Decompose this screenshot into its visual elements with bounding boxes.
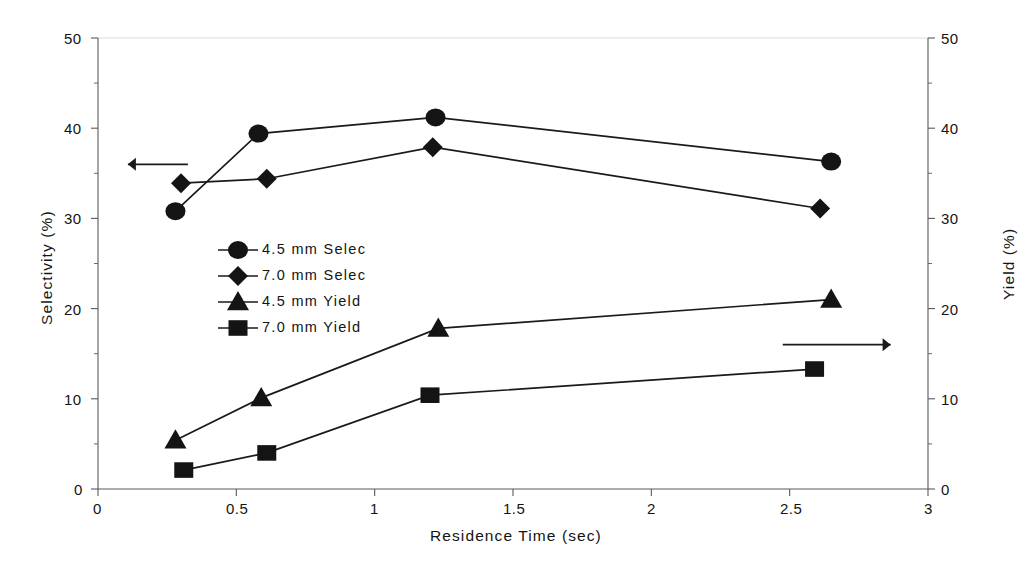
legend-marker-triangle [227, 291, 249, 310]
y2-axis-tick-label: 40 [941, 120, 959, 137]
data-point-triangle [820, 289, 842, 308]
data-point-square [805, 361, 824, 377]
x-axis-tick-label: 3 [924, 500, 933, 517]
right-axis-arrow [883, 338, 891, 351]
series-1 [171, 137, 830, 218]
legend-label-2: 4.5 mm Yield [262, 293, 361, 309]
data-point-diamond [423, 137, 443, 157]
y-axis-tick-label: 50 [64, 30, 82, 47]
y2-axis-tick-label: 30 [941, 210, 959, 227]
axis-lines [98, 38, 928, 489]
legend-marker-square [229, 320, 248, 336]
data-point-circle [426, 108, 446, 126]
legend-marker-circle [228, 241, 248, 259]
legend-label-1: 7.0 mm Selec [262, 267, 366, 283]
x-axis-tick-label: 0 [93, 500, 102, 517]
legend-label-3: 7.0 mm Yield [262, 319, 361, 335]
data-point-diamond [810, 198, 830, 218]
y-axis-tick-label: 10 [64, 391, 82, 408]
plot-canvas [0, 0, 1031, 575]
data-point-square [421, 387, 440, 403]
chart-figure: 50 40 30 20 10 0 50 40 30 20 10 0 0 0.5 … [0, 0, 1031, 575]
data-point-square [257, 445, 276, 461]
y2-axis-tick-label: 10 [941, 391, 959, 408]
data-point-triangle [164, 429, 186, 448]
x-axis-tick-label: 1.5 [503, 500, 525, 517]
y-axis-tick-label: 0 [74, 481, 83, 498]
data-point-diamond [171, 173, 191, 193]
y-axis-tick-label: 40 [64, 120, 82, 137]
data-point-square [174, 462, 193, 478]
y-axis-tick-label: 30 [64, 210, 82, 227]
x-axis-tick-label: 2.5 [780, 500, 802, 517]
y2-axis-title: Yield (%) [1000, 228, 1018, 300]
legend [218, 241, 258, 336]
data-point-triangle [250, 387, 272, 406]
legend-label-0: 4.5 mm Selec [262, 241, 366, 257]
y2-axis-tick-label: 20 [941, 301, 959, 318]
series-0 [165, 108, 841, 220]
y-axis-tick-label: 20 [64, 301, 82, 318]
x-axis-tick-label: 2 [647, 500, 656, 517]
data-point-circle [821, 153, 841, 171]
axis-ticks [91, 38, 935, 496]
y-axis-title: Selectivity (%) [38, 210, 56, 325]
series-3 [174, 361, 824, 478]
y2-axis-tick-label: 50 [941, 30, 959, 47]
x-axis-tick-label: 1 [370, 500, 379, 517]
y2-axis-tick-label: 0 [941, 481, 950, 498]
left-axis-arrow [128, 158, 136, 171]
x-axis-title: Residence Time (sec) [430, 527, 602, 545]
x-axis-tick-label: 0.5 [226, 500, 248, 517]
data-point-diamond [257, 169, 277, 189]
data-point-circle [248, 125, 268, 143]
data-point-circle [165, 202, 185, 220]
legend-marker-diamond [228, 266, 248, 286]
series-2 [164, 289, 842, 449]
